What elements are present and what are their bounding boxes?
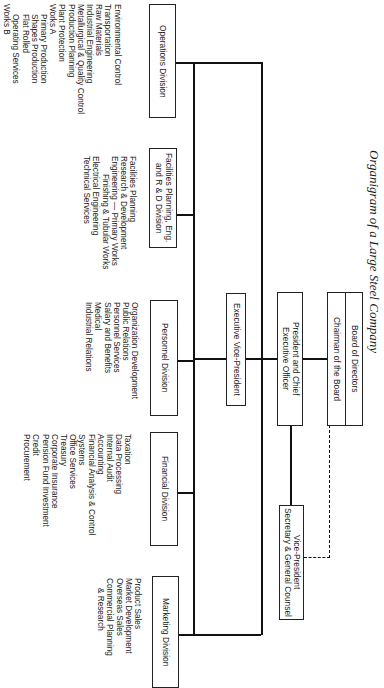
vp-line1: Vice-President: [292, 508, 302, 617]
board-box[interactable]: Board of Directors Chairman of the Board: [327, 292, 363, 426]
execvp-to-president-line: [245, 358, 277, 360]
list-item: Product Sales: [133, 578, 142, 656]
list-item: Public Relations: [121, 302, 130, 399]
list-item: Technical Services: [82, 156, 91, 269]
list-item: Organization Development: [130, 302, 139, 399]
list-item: Transportation: [103, 4, 112, 114]
facilities-label-line2: and R & D Division: [154, 153, 164, 242]
marketing-division-box[interactable]: Marketing Division: [152, 576, 179, 688]
list-item: & Research: [96, 578, 105, 656]
chairman-label: Chairman of the Board: [332, 317, 342, 401]
exec-loop-top-line: [193, 62, 261, 64]
facilities-connector: [176, 214, 194, 216]
list-item: Engineering — Primary Works: [110, 156, 119, 269]
list-item: Pension Fund Investment: [40, 434, 49, 535]
personnel-list: Organization Development Public Relation…: [84, 302, 139, 399]
vp-line2: Secretary & General Counsel: [282, 508, 292, 617]
list-item: Flat Rolled: [20, 4, 29, 114]
list-item: Shapes Production: [30, 4, 39, 114]
president-box[interactable]: President and Chief Executive Officer: [277, 292, 303, 426]
trunk-to-execvp-line: [193, 358, 226, 360]
list-item: Research & Development: [119, 156, 128, 269]
facilities-label-line1: Facilities Planning, Eng.: [163, 153, 173, 242]
list-item: Internal Audit: [105, 434, 114, 535]
exec-loop-right-line: [261, 62, 263, 635]
president-line1: President and Chief: [290, 322, 300, 396]
list-item: Industrial Relations: [84, 302, 93, 399]
list-item: Procurement: [22, 434, 31, 535]
executive-vp-box[interactable]: Executive Vice-President: [226, 293, 246, 406]
list-item: Treasury: [59, 434, 68, 535]
board-of-directors-label: Board of Directors: [349, 325, 359, 393]
financial-division-label: Financial Division: [159, 456, 169, 521]
list-item: Works A: [48, 4, 57, 114]
list-item: Raw Materials: [94, 4, 103, 114]
financial-division-box[interactable]: Financial Division: [150, 432, 178, 546]
board-to-vp-dashed-line: [329, 425, 330, 558]
facilities-division-box[interactable]: Facilities Planning, Eng. and R & D Divi…: [149, 148, 177, 248]
list-item: Personnel Services: [112, 302, 121, 399]
division-trunk-line: [193, 62, 195, 635]
personnel-connector: [178, 360, 194, 362]
personnel-division-box[interactable]: Personnel Division: [150, 300, 178, 416]
marketing-connector: [178, 634, 194, 636]
list-item: Facilities Planning: [128, 156, 137, 269]
financial-list: Taxation Data Processing Internal Audit …: [22, 434, 132, 535]
list-item: Salary and Benefits: [102, 302, 111, 399]
list-item: Market Development: [124, 578, 133, 656]
operations-division-label: Operations Division: [158, 25, 168, 98]
list-item: Plant Protection: [57, 4, 66, 114]
operations-connector: [176, 62, 194, 64]
list-item: Commercial Planning: [105, 578, 114, 656]
financial-connector: [178, 492, 194, 494]
marketing-list: Product Sales Market Development Oversea…: [96, 578, 142, 656]
list-item: Finishing & Tubular Works: [100, 156, 109, 269]
list-item: Accounting: [96, 434, 105, 535]
vp-secretary-box[interactable]: Vice-President Secretary & General Couns…: [279, 505, 304, 620]
list-item: Environmental Control: [112, 4, 121, 114]
list-item: Industrial Engineering: [85, 4, 94, 114]
list-item: Systems: [77, 434, 86, 535]
list-item: Metallurgical & Quality Control: [76, 4, 85, 114]
list-item: Works B: [2, 4, 11, 114]
list-item: Overseas Sales: [114, 578, 123, 656]
operations-division-box[interactable]: Operations Division: [149, 4, 176, 118]
list-item: Financial Analysis & Control: [86, 434, 95, 535]
president-to-vp-line: [290, 425, 292, 505]
exec-loop-bottom-line: [193, 634, 261, 636]
operations-list: Environmental Control Transportation Raw…: [2, 4, 122, 114]
list-item: Operating Services: [11, 4, 20, 114]
list-item: Medical: [93, 302, 102, 399]
facilities-list: Facilities Planning Research & Developme…: [82, 156, 137, 269]
personnel-division-label: Personnel Division: [159, 323, 169, 392]
list-item: Taxation: [123, 434, 132, 535]
executive-vp-label: Executive Vice-President: [231, 303, 241, 396]
chart-title: Organigram of a Large Steel Company: [366, 150, 382, 353]
list-item: Data Processing: [114, 434, 123, 535]
marketing-division-label: Marketing Division: [161, 598, 171, 666]
list-item: Electrical Engineering: [91, 156, 100, 269]
list-item: Corporate Insurance: [50, 434, 59, 535]
president-to-board-line: [303, 358, 327, 360]
list-item: Credit: [31, 434, 40, 535]
list-item: Primary Production: [39, 4, 48, 114]
president-line2: Executive Officer: [281, 322, 291, 396]
list-item: Production Planning: [66, 4, 75, 114]
list-item: Office Services: [68, 434, 77, 535]
board-to-vp-dashed-line-h: [304, 557, 330, 558]
